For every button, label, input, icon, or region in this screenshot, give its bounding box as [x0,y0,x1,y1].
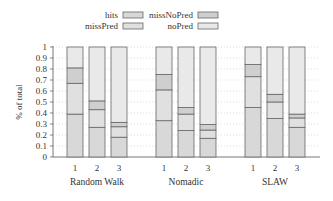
bar-segment-hits [156,121,172,157]
bar-segment-missNoPred [178,108,194,115]
bar-segment-noPred [200,47,216,125]
bar-segment-missPred [245,77,261,108]
bar-segment-noPred [67,47,83,68]
bar-segment-hits [111,137,127,157]
legend-label: missPred [85,21,119,31]
group-label: SLAW [262,177,288,187]
legend-swatch [123,23,143,29]
x-tick-label: 3 [206,163,211,173]
bar-segment-missPred [156,90,172,121]
y-tick-label: 0.1 [36,141,47,151]
bar-segment-hits [200,138,216,157]
y-axis-label: % of total [14,84,24,120]
bar-segment-noPred [156,47,172,75]
bar-segment-noPred [267,47,283,94]
bar-segment-missNoPred [89,101,105,110]
bar-segment-missPred [111,127,127,137]
bar-segment-missNoPred [245,65,261,77]
bar-segment-noPred [245,47,261,65]
stacked-bar-chart: hitsmissNoPredmissPrednoPred 00.10.20.30… [0,0,333,201]
y-tick-label: 0.3 [36,119,48,129]
x-tick-label: 1 [162,163,167,173]
y-tick-label: 1 [43,42,48,52]
legend-label: hits [105,10,119,20]
x-tick-label: 3 [295,163,300,173]
bar-segment-missNoPred [111,122,127,126]
bar-segment-missPred [89,110,105,128]
group-label: Random Walk [70,177,124,187]
bar-segment-hits [289,127,305,157]
bar-segment-noPred [178,47,194,108]
x-tick-label: 2 [184,163,189,173]
bar-segment-missPred [267,102,283,119]
bar-segment-missNoPred [156,75,172,90]
bar-segment-hits [267,119,283,158]
x-tick-label: 3 [117,163,122,173]
legend-swatch [123,12,143,18]
x-tick-label: 2 [273,163,278,173]
y-tick-label: 0.5 [36,97,48,107]
legend-label: noPred [168,21,194,31]
x-tick-label: 1 [251,163,256,173]
bars [67,47,305,157]
y-tick-label: 0.4 [36,108,48,118]
bar-segment-missNoPred [267,94,283,102]
legend-swatch [198,12,218,18]
bar-segment-noPred [289,47,305,114]
y-tick-label: 0.6 [36,86,48,96]
x-tick-label: 2 [95,163,100,173]
y-tick-label: 0.2 [36,130,47,140]
y-tick-label: 0.9 [36,53,48,63]
y-tick-label: 0.8 [36,64,48,74]
bar-segment-missNoPred [67,68,83,83]
bar-segment-noPred [111,47,127,122]
x-tick-label: 1 [73,163,78,173]
y-tick-label: 0.7 [36,75,48,85]
bar-segment-missPred [178,114,194,131]
bar-segment-noPred [89,47,105,101]
bar-segment-missNoPred [200,125,216,131]
legend-label: missNoPred [149,10,194,20]
bar-segment-hits [245,108,261,158]
group-label: Nomadic [169,177,204,187]
legend: hitsmissNoPredmissPrednoPred [85,10,218,31]
bar-segment-missNoPred [289,114,305,118]
legend-swatch [198,23,218,29]
y-tick-label: 0 [43,152,48,162]
bar-segment-hits [67,114,83,157]
bar-segment-hits [178,131,194,157]
bar-segment-missPred [289,118,305,127]
bar-segment-missPred [67,83,83,114]
bar-segment-hits [89,127,105,157]
bar-segment-missPred [200,130,216,138]
